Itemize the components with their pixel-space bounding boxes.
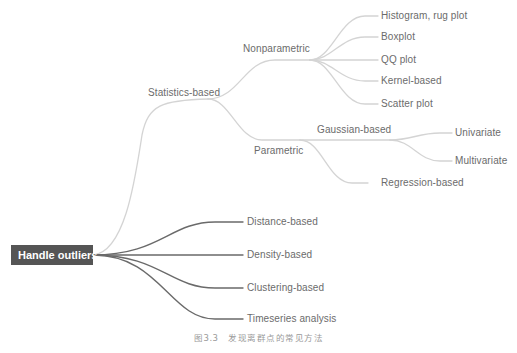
- node-univariate: Univariate: [455, 127, 501, 139]
- edge-statistics-nonparametric: [208, 60, 310, 99]
- edge-statistics-parametric: [208, 99, 300, 140]
- node-scatter-plot: Scatter plot: [381, 98, 433, 110]
- figure-caption: 图3.3 发现离群点的常见方法: [0, 331, 517, 343]
- node-multivariate: Multivariate: [455, 155, 507, 167]
- node-histogram-rug-plot: Histogram, rug plot: [381, 10, 467, 22]
- node-distance-based: Distance-based: [247, 216, 318, 228]
- node-nonparametric: Nonparametric: [243, 43, 310, 55]
- node-clustering-based: Clustering-based: [247, 282, 324, 294]
- node-density-based: Density-based: [247, 249, 312, 261]
- node-parametric: Parametric: [254, 145, 303, 157]
- node-regression-based: Regression-based: [381, 177, 464, 189]
- root-node-handle-outliers: Handle outliers: [11, 245, 93, 265]
- edge-root-timeseries: [93, 255, 243, 319]
- edge-root-clustering: [93, 255, 243, 288]
- node-qq-plot: QQ plot: [381, 54, 416, 66]
- edge-gaussian-multivariate: [390, 140, 452, 161]
- edge-nonparam-histogram: [310, 16, 378, 60]
- node-kernel-based: Kernel-based: [381, 75, 442, 87]
- node-timeseries-analysis: Timeseries analysis: [247, 313, 336, 325]
- edge-nonparam-scatter: [310, 60, 378, 104]
- node-boxplot: Boxplot: [381, 31, 415, 43]
- edge-root-statistics: [93, 99, 208, 255]
- node-gaussian-based: Gaussian-based: [317, 124, 391, 136]
- edge-param-regression: [300, 140, 368, 183]
- edge-gaussian-univariate: [390, 133, 452, 140]
- node-statistics-based: Statistics-based: [148, 87, 220, 99]
